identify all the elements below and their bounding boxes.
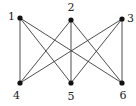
node-6 (119, 80, 124, 85)
node-5 (68, 80, 73, 85)
node-2 (68, 17, 73, 22)
node-1 (17, 15, 22, 20)
node-label-4: 4 (13, 89, 20, 102)
node-3 (119, 16, 124, 21)
node-label-5: 5 (68, 90, 75, 103)
node-label-1: 1 (8, 10, 15, 23)
edges (20, 18, 122, 83)
k33-graph-diagram: 123456 (0, 0, 136, 106)
node-4 (17, 80, 22, 85)
node-label-3: 3 (127, 12, 134, 25)
node-label-6: 6 (120, 89, 127, 102)
node-label-2: 2 (68, 1, 75, 14)
